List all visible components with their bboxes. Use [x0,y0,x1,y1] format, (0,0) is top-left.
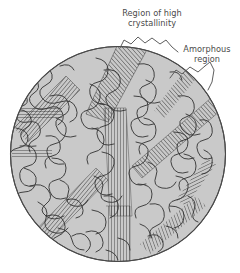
crystalline-label-line1: Region of high [106,8,198,18]
crystalline-bundle-left-lower [12,148,52,158]
label-region-of-high-crystallinity: Region of high crystallinity [106,8,198,28]
amorphous-label-line1: Amorphous [176,44,238,54]
amorphous-leader-tail [205,62,214,90]
amorphous-label-line2: region [176,54,238,64]
label-amorphous-region: Amorphous region [176,44,238,64]
crystalline-label-line2: crystallinity [106,18,198,28]
polymer-microstructure-figure [0,0,240,273]
